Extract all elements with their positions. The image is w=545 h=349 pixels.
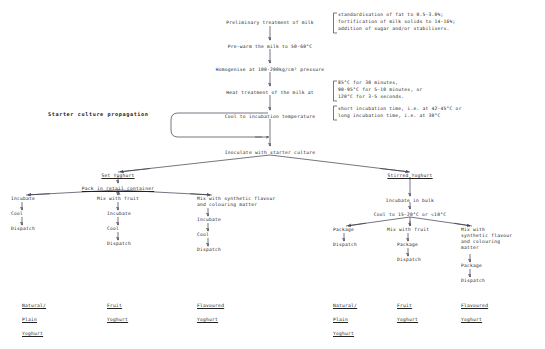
set-flavoured-step-1b: and colouring matter: [197, 201, 257, 208]
cool-bracket: [334, 106, 338, 120]
set-fruit-step-3: Cool: [107, 225, 119, 232]
step-heat-treatment: Heat treatment of the milk at: [226, 89, 313, 96]
right-product-natural-line3: Yoghurt: [333, 330, 354, 337]
stirred-yoghurt-heading: Stirred Yoghurt: [387, 172, 432, 179]
step-preliminary-treatment: Preliminary treatment of milk: [226, 19, 313, 26]
left-product-flavoured-line1: Flavoured: [197, 302, 224, 309]
right-product-fruit-line2: Yoghurt: [397, 316, 418, 323]
bracket-glyphs: [0, 0, 545, 349]
set-yoghurt-heading: Set Yoghurt: [101, 172, 134, 179]
set-fruit-step-2: Incubate: [107, 210, 131, 217]
left-product-fruit-line2: Yoghurt: [107, 316, 128, 323]
note-cool-line1: short incubation time, i.e. at 42-45°C o…: [338, 105, 462, 112]
stirred-natural-step-2: Dispatch: [333, 241, 357, 248]
note-prelim-line2: fortification of milk solids to 14-16%;: [338, 18, 456, 25]
stirred-fruit-step-2: Package: [397, 241, 418, 248]
right-product-natural-line1: Natural/: [333, 302, 357, 309]
note-heat-line2: 90-95°C for 5-10 minutes, or: [338, 86, 422, 93]
stirred-incubate-in-bulk: Incubate in bulk: [386, 197, 434, 204]
pack-in-retail-container: Pack in retail container: [82, 185, 154, 192]
left-product-flavoured-line2: Yoghurt: [197, 316, 218, 323]
right-product-natural-line2: Plain: [333, 316, 348, 323]
stirred-flavoured-step-3: Dispatch: [461, 277, 485, 284]
heat-bracket: [334, 81, 338, 101]
set-natural-step-2: Cool: [11, 210, 23, 217]
right-product-flavoured-line1: Flavoured: [461, 302, 488, 309]
left-product-natural-line1: Natural/: [22, 302, 46, 309]
left-product-natural-line2: Plain: [22, 316, 37, 323]
stirred-fruit-step-3: Dispatch: [397, 256, 421, 263]
set-natural-step-1: Incubate: [11, 195, 35, 202]
note-heat-line1: 85°C for 30 minutes,: [338, 79, 398, 86]
step-homogenise: Homogenise at 100-200kg/cm² pressure: [216, 66, 325, 73]
right-product-fruit-line1: Fruit: [397, 302, 412, 309]
left-product-fruit-line1: Fruit: [107, 302, 122, 309]
note-prelim-line1: standardisation of fat to 0.5-3.0%;: [338, 11, 444, 18]
note-heat-line3: 120°C for 3-5 seconds.: [338, 93, 404, 100]
stirred-fruit-step-1: Mix with fruit: [387, 226, 429, 233]
set-natural-step-3: Dispatch: [11, 225, 35, 232]
stirred-flavoured-step-2: Package: [461, 262, 482, 269]
prelim-bracket: [334, 13, 338, 33]
step-inoculate: Inoculate with starter culture: [225, 149, 315, 156]
stirred-flavoured-step-1d: matter: [461, 244, 479, 251]
set-flavoured-step-4: Dispatch: [197, 246, 221, 253]
starter-culture-propagation-label: Starter culture propagation: [48, 111, 149, 118]
stirred-natural-step-1: Package: [333, 226, 354, 233]
left-product-natural-line3: Yoghurt: [22, 330, 43, 337]
note-cool-line2: long incubation time, i.e. at 30°C: [338, 112, 441, 119]
step-pre-warm: Pre-warm the milk to 50-60°C: [228, 43, 312, 50]
step-cool-incubation: Cool to incubation temperature: [225, 113, 315, 120]
set-fruit-step-4: Dispatch: [107, 240, 131, 247]
note-prelim-line3: addition of sugar and/or stabilisers.: [338, 25, 450, 32]
set-fruit-step-1: Mix with fruit: [97, 195, 139, 202]
stirred-cool-step: Cool to 15-20°C or <10°C: [374, 211, 446, 218]
set-flavoured-step-2: Incubate: [197, 216, 221, 223]
right-product-flavoured-line2: Yoghurt: [461, 316, 482, 323]
set-flavoured-step-3: Cool: [197, 231, 209, 238]
